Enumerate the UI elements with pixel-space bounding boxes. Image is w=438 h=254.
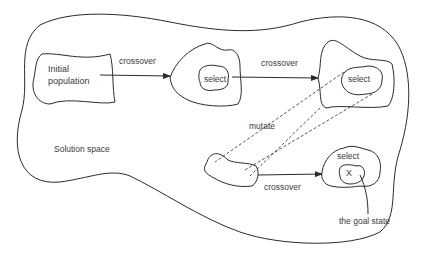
mutated-population-blob — [204, 154, 258, 187]
select-label-3: select — [337, 152, 359, 162]
crossover-label-3: crossover — [264, 183, 301, 193]
solution-space-boundary — [17, 14, 409, 243]
genetic-algorithm-diagram: Initial population crossover select cros… — [0, 0, 438, 254]
initial-population-label-line1: Initial — [48, 64, 69, 74]
solution-space-label: Solution space — [54, 145, 110, 155]
mutate-label: mutate — [249, 122, 275, 132]
crossover-arrow-3 — [258, 174, 322, 175]
select-label-1: select — [204, 75, 226, 85]
select-label-2: select — [348, 75, 370, 85]
goal-marker: X — [346, 168, 352, 178]
crossover-arrow-2 — [232, 77, 318, 78]
crossover-label-2: crossover — [261, 59, 298, 69]
crossover-label-1: crossover — [119, 57, 156, 67]
mutate-dashed-line-1 — [215, 72, 344, 162]
crossover-arrow-1 — [100, 75, 170, 76]
goal-state-label: the goal state — [339, 217, 390, 227]
initial-population-label-line2: population — [48, 76, 90, 86]
mutate-dashed-line-3 — [250, 108, 320, 176]
